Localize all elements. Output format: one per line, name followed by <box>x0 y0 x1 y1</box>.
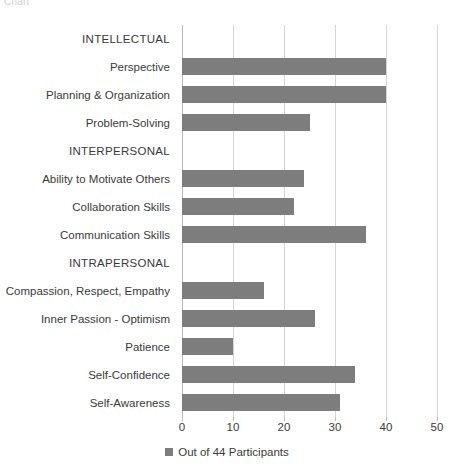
x-axis-tick-label: 0 <box>179 421 185 433</box>
bar[interactable] <box>182 282 264 299</box>
bar[interactable] <box>182 198 294 215</box>
bar[interactable] <box>182 226 366 243</box>
bar-row <box>182 389 437 417</box>
category-group-header: INTELLECTUAL <box>0 25 176 53</box>
x-axis-tick-label: 10 <box>227 421 240 433</box>
bar[interactable] <box>182 394 340 411</box>
x-axis-tick-label: 50 <box>431 421 444 433</box>
category-label: Inner Passion - Optimism <box>0 305 176 333</box>
bar-rows <box>182 25 437 417</box>
bar-row <box>182 137 437 165</box>
legend-label: Out of 44 Participants <box>178 446 289 458</box>
bar-row <box>182 305 437 333</box>
x-axis-tick-label: 20 <box>278 421 291 433</box>
cut-off-header: Chart <box>4 0 29 5</box>
gridline <box>437 25 438 417</box>
bar-row <box>182 193 437 221</box>
bar-row <box>182 165 437 193</box>
legend-swatch-icon <box>165 448 173 456</box>
bar[interactable] <box>182 366 355 383</box>
x-axis-tick-label: 30 <box>329 421 342 433</box>
x-axis-tick-label: 40 <box>380 421 393 433</box>
category-group-header: INTERPERSONAL <box>0 137 176 165</box>
bar-row <box>182 249 437 277</box>
bar[interactable] <box>182 86 386 103</box>
category-label: Communication Skills <box>0 221 176 249</box>
category-group-header: INTRAPERSONAL <box>0 249 176 277</box>
bar[interactable] <box>182 58 386 75</box>
bar[interactable] <box>182 338 233 355</box>
chart-legend: Out of 44 Participants <box>0 446 454 458</box>
x-axis-tick-labels: 01020304050 <box>0 421 454 437</box>
bar[interactable] <box>182 170 304 187</box>
category-label-column: INTELLECTUALPerspectivePlanning & Organi… <box>0 25 176 417</box>
bar[interactable] <box>182 310 315 327</box>
category-label: Self-Confidence <box>0 361 176 389</box>
bar-row <box>182 81 437 109</box>
bar[interactable] <box>182 114 310 131</box>
bar-row <box>182 277 437 305</box>
legend-entry: Out of 44 Participants <box>165 446 289 458</box>
bar-row <box>182 109 437 137</box>
bar-row <box>182 53 437 81</box>
category-label: Perspective <box>0 53 176 81</box>
category-label: Collaboration Skills <box>0 193 176 221</box>
category-label: Patience <box>0 333 176 361</box>
bar-row <box>182 221 437 249</box>
category-label: Planning & Organization <box>0 81 176 109</box>
bar-chart: Chart INTELLECTUALPerspectivePlanning & … <box>0 0 454 475</box>
category-label: Self-Awareness <box>0 389 176 417</box>
bar-row <box>182 361 437 389</box>
category-label: Compassion, Respect, Empathy <box>0 277 176 305</box>
plot-area <box>182 25 437 417</box>
bar-row <box>182 333 437 361</box>
category-label: Ability to Motivate Others <box>0 165 176 193</box>
category-label: Problem-Solving <box>0 109 176 137</box>
bar-row <box>182 25 437 53</box>
